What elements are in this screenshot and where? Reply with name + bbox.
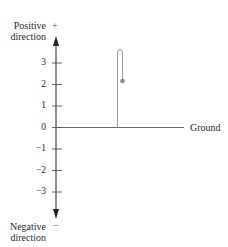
positive-label-line1: Positive (0, 20, 46, 31)
tick-label: 3 (16, 57, 46, 68)
tick-label: −3 (16, 186, 46, 197)
arrow-down-icon (53, 209, 59, 219)
tick-label: 2 (16, 79, 46, 90)
arrow-up-icon (53, 36, 59, 46)
pole (118, 50, 123, 128)
tick-label: −2 (16, 165, 46, 176)
negative-sign: − (53, 220, 59, 231)
negative-label-line1: Negative (0, 221, 46, 232)
negative-direction-label: Negative direction (0, 221, 46, 243)
tick-label: 0 (16, 122, 46, 133)
tick-label: −1 (16, 143, 46, 154)
negative-label-line2: direction (0, 232, 46, 243)
ball (120, 79, 125, 84)
ground-label: Ground (190, 122, 221, 133)
positive-sign: + (52, 20, 58, 31)
tick-label: 1 (16, 100, 46, 111)
positive-direction-label: Positive direction (0, 20, 46, 42)
positive-label-line2: direction (0, 31, 46, 42)
